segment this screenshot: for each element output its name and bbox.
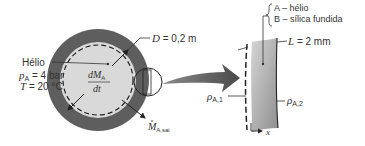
rho-outer-label: ρA,2 [286, 94, 303, 107]
rho-inner-label: ρA,1 [206, 90, 223, 103]
thickness-label: L = 2 mm [287, 35, 331, 47]
slab-body [251, 38, 278, 132]
species-b-label: B – sílica fundida [274, 14, 343, 24]
temperature-label: T = 20 °C [20, 80, 63, 92]
species-a-label: A – hélio [274, 3, 309, 13]
thickness-leader [277, 41, 287, 42]
outflow-label: MA,sai [147, 120, 170, 133]
species-brace [266, 4, 272, 26]
diagram-canvas: Hélio pA = 4 bar T = 20 °C D = 0,2 m dMA… [0, 0, 365, 146]
slab-inner-dashed [246, 44, 248, 130]
outflow-dot [151, 120, 153, 122]
helium-leader-dot [107, 63, 109, 65]
species-leader-dot [262, 63, 264, 65]
svg-text:MA,sai: MA,sai [147, 121, 170, 133]
mass-rate-denominator: dt [93, 83, 101, 94]
helium-label: Hélio [22, 57, 45, 68]
diameter-label: D = 0,2 m [151, 32, 196, 44]
x-axis-label: x [265, 127, 270, 137]
zoom-arrow [162, 64, 240, 92]
